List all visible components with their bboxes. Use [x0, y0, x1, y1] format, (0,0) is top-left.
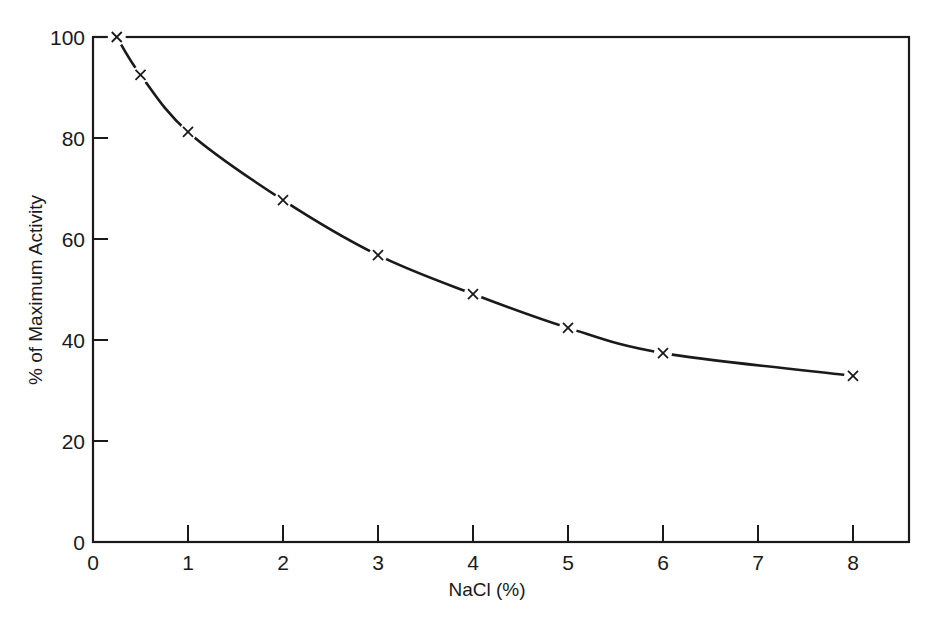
plot-frame	[93, 37, 909, 542]
data-point-marker	[132, 66, 150, 84]
x-axis: 012345678	[87, 525, 859, 574]
y-tick-label: 40	[62, 329, 85, 352]
x-tick-label: 1	[182, 551, 194, 574]
x-tick-label: 4	[467, 551, 479, 574]
x-tick-label: 3	[372, 551, 384, 574]
y-tick-label: 80	[62, 127, 85, 150]
y-tick-label: 0	[73, 531, 85, 554]
data-point-marker	[464, 285, 482, 303]
y-axis-title: % of Maximum Activity	[25, 194, 46, 385]
chart: 020406080100 012345678 NaCl (%) % of Max…	[0, 0, 932, 625]
data-point-marker	[108, 28, 126, 46]
data-point-marker	[559, 319, 577, 337]
y-tick-label: 100	[50, 26, 85, 49]
x-tick-label: 0	[87, 551, 99, 574]
data-point-marker	[369, 246, 387, 264]
x-axis-title: NaCl (%)	[448, 579, 525, 600]
x-tick-label: 6	[657, 551, 669, 574]
data-point-marker	[844, 367, 862, 385]
x-tick-label: 7	[752, 551, 764, 574]
data-markers	[108, 28, 862, 385]
data-point-marker	[179, 123, 197, 141]
x-tick-label: 8	[847, 551, 859, 574]
x-tick-label: 5	[562, 551, 574, 574]
activity-curve	[117, 37, 853, 376]
data-point-marker	[274, 191, 292, 209]
y-tick-label: 60	[62, 228, 85, 251]
y-axis: 020406080100	[50, 26, 108, 554]
y-tick-label: 20	[62, 430, 85, 453]
x-tick-label: 2	[277, 551, 289, 574]
data-point-marker	[654, 344, 672, 362]
